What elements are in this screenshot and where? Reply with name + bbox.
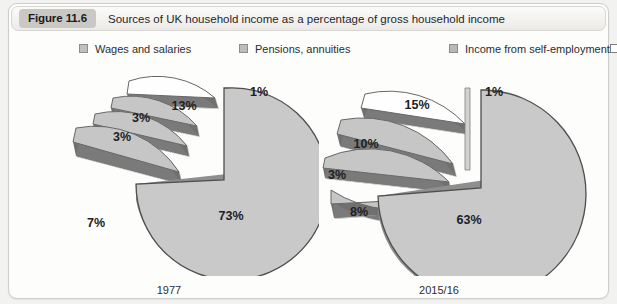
pie-svg-2015-16: 8% 3% 10% 15% 1% 63% [289,76,589,276]
legend-swatch-icon-cash-benefits [610,44,617,53]
slice-label-1977-other: 1% [250,85,268,99]
legend-swatch-icon-wages [79,44,88,53]
legend-swatch-icon-pensions [239,44,248,53]
slice-2015-other [465,88,470,170]
legend-label-pensions: Pensions, annuities [255,43,350,55]
legend-item-cash-benefits: Total cash benefits [610,43,617,55]
slice-label-2015-main: 63% [456,213,481,227]
slice-label-1977-pensions: 3% [113,130,131,144]
legend-item-self-employment: Income from self-employment [449,43,610,55]
legend-label-self-employment: Income from self-employment [465,43,610,55]
pie-svg-1977: 7% 3% 3% 13% 1% 73% [19,76,319,276]
chart-legend: Wages and salaries Pensions, annuities I… [79,40,599,57]
legend-label-wages: Wages and salaries [95,43,191,55]
legend-swatch-icon-self-employment [449,44,458,53]
legend-item-pensions: Pensions, annuities [239,43,449,55]
chart-year-label-1977: 1977 [19,284,319,296]
slice-label-2015-cash-benefits: 15% [404,98,429,112]
pie-chart-1977: 7% 3% 3% 13% 1% 73% 1977 [19,76,319,298]
slice-label-1977-wages: 7% [87,216,105,230]
charts-area: 7% 3% 3% 13% 1% 73% 1977 [9,76,610,298]
slice-label-1977-main: 73% [218,209,243,223]
figure-caption-bar: Figure 11.6 Sources of UK household inco… [11,6,606,31]
figure-caption-text: Sources of UK household income as a perc… [108,13,505,25]
slice-label-2015-pensions: 3% [328,168,346,182]
pie-chart-2015-16: 8% 3% 10% 15% 1% 63% 2015/16 [289,76,589,298]
figure-panel: Figure 11.6 Sources of UK household inco… [8,3,609,299]
legend-item-wages: Wages and salaries [79,43,239,55]
figure-number-badge: Figure 11.6 [19,9,96,28]
slice-label-1977-self-employment: 3% [132,111,150,125]
slice-label-2015-wages: 8% [350,205,368,219]
slice-label-2015-other: 1% [485,85,503,99]
slice-label-1977-cash-benefits: 13% [171,99,196,113]
slice-label-2015-self-employment: 10% [353,137,378,151]
chart-year-label-2015-16: 2015/16 [289,284,589,296]
